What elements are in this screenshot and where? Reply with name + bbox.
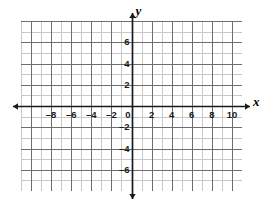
axes-layer xyxy=(0,0,260,203)
x-axis-arrow-left xyxy=(13,103,18,109)
y-tick-label: –4 xyxy=(119,144,130,154)
x-tick-label: 8 xyxy=(209,110,214,120)
x-axis-arrow-right xyxy=(245,103,250,109)
x-axis-name: x xyxy=(253,95,260,108)
x-tick-label: 10 xyxy=(227,110,238,120)
y-axis-name: y xyxy=(136,4,142,17)
x-tick-label: 2 xyxy=(149,110,154,120)
origin-label: 0 xyxy=(125,110,130,120)
x-tick-label: 6 xyxy=(189,110,194,120)
coordinate-plane: –8–6–4–2246810642–2–4–60 y x xyxy=(0,0,260,203)
y-tick-label: 6 xyxy=(124,38,129,48)
x-tick-label: –8 xyxy=(46,110,57,120)
y-tick-label: –6 xyxy=(119,165,130,175)
x-tick-label: –4 xyxy=(86,110,97,120)
x-tick-label: 4 xyxy=(169,110,174,120)
y-tick-label: –2 xyxy=(119,123,130,133)
y-tick-label: 4 xyxy=(124,59,129,69)
y-tick-label: 2 xyxy=(124,80,129,90)
x-tick-label: –2 xyxy=(106,110,117,120)
x-tick-label: –6 xyxy=(66,110,77,120)
y-axis-arrow-down xyxy=(129,194,135,199)
